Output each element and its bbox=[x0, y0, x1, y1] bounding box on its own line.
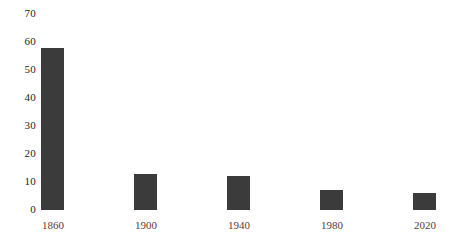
x-tick-label-1860: 1860 bbox=[42, 220, 64, 231]
bar-1980 bbox=[320, 190, 343, 210]
x-tick-label-1980: 1980 bbox=[321, 220, 343, 231]
bar-1940 bbox=[227, 176, 250, 210]
bar-1900 bbox=[134, 174, 157, 210]
x-tick-label-2020: 2020 bbox=[414, 220, 436, 231]
x-tick-label-1940: 1940 bbox=[228, 220, 250, 231]
bar-2020 bbox=[413, 193, 436, 210]
plot-area: 70 60 50 40 30 20 10 0 1860 1900 1940 19… bbox=[0, 0, 453, 241]
bar-chart: 70 60 50 40 30 20 10 0 1860 1900 1940 19… bbox=[0, 0, 453, 241]
x-tick-label-1900: 1900 bbox=[135, 220, 157, 231]
bar-1860 bbox=[41, 48, 64, 210]
bars-layer bbox=[0, 0, 453, 241]
